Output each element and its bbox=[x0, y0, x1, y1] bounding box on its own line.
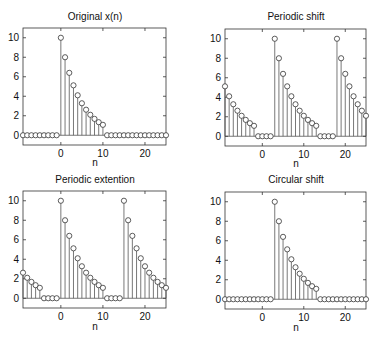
stem-marker bbox=[83, 107, 88, 112]
stem-marker bbox=[268, 134, 273, 139]
stem-marker bbox=[100, 122, 105, 127]
subplot-periodic-extension: Periodic extention 024681001020 n bbox=[8, 174, 169, 332]
y-tick-label: 2 bbox=[13, 110, 19, 121]
y-tick-label: 8 bbox=[215, 53, 221, 64]
stem-marker bbox=[71, 246, 76, 251]
y-tick-label: 0 bbox=[13, 293, 19, 304]
stem-marker bbox=[67, 233, 72, 238]
stem-marker bbox=[130, 233, 135, 238]
y-tick-label: 2 bbox=[13, 273, 19, 284]
y-tick-label: 6 bbox=[13, 71, 19, 82]
y-tick-label: 0 bbox=[215, 294, 221, 305]
subplot-title: Circular shift bbox=[268, 174, 324, 185]
x-axis-label: n bbox=[92, 321, 98, 332]
x-axis-label: n bbox=[293, 322, 299, 333]
stem-marker bbox=[272, 36, 277, 41]
stem-marker bbox=[75, 256, 80, 261]
stem-marker bbox=[117, 296, 122, 301]
stem-marker bbox=[231, 102, 236, 107]
stem-marker bbox=[276, 219, 281, 224]
stem-marker bbox=[126, 218, 131, 223]
stem-marker bbox=[163, 285, 168, 290]
y-tick-label: 4 bbox=[215, 255, 221, 266]
stem-marker bbox=[280, 234, 285, 239]
stem-marker bbox=[37, 285, 42, 290]
x-tick-label: 20 bbox=[139, 311, 151, 322]
stem-marker bbox=[147, 270, 152, 275]
stem-marker bbox=[314, 286, 319, 291]
subplot-title: Original x(n) bbox=[68, 11, 122, 22]
stem-marker bbox=[301, 276, 306, 281]
stem-marker bbox=[100, 285, 105, 290]
x-axis-label: n bbox=[92, 157, 98, 168]
x-tick-label: 10 bbox=[298, 149, 310, 160]
stem-marker bbox=[138, 256, 143, 261]
subplot-original: Original x(n) 024681001020 n bbox=[8, 11, 169, 168]
stem-marker bbox=[314, 123, 319, 128]
y-tick-label: 6 bbox=[215, 235, 221, 246]
subplot-circular-shift: Circular shift 024681001020 n bbox=[210, 174, 369, 333]
stem-marker bbox=[83, 270, 88, 275]
y-tick-label: 6 bbox=[13, 234, 19, 245]
stem-marker bbox=[339, 56, 344, 61]
stem-marker bbox=[62, 55, 67, 60]
y-tick-label: 8 bbox=[215, 216, 221, 227]
stem-marker bbox=[285, 84, 290, 89]
stem-marker bbox=[363, 113, 368, 118]
stem-marker bbox=[54, 296, 59, 301]
subplot-periodic-shift: Periodic shift 024681001020 n bbox=[210, 11, 369, 169]
x-tick-label: 20 bbox=[340, 312, 352, 323]
stem-marker bbox=[58, 198, 63, 203]
stem-marker bbox=[272, 199, 277, 204]
x-tick-label: 10 bbox=[298, 312, 310, 323]
stem-marker bbox=[134, 246, 139, 251]
stem-marker bbox=[88, 275, 93, 280]
stem-marker bbox=[280, 71, 285, 76]
stem-marker bbox=[297, 271, 302, 276]
x-tick-label: 20 bbox=[139, 148, 151, 159]
stem-marker bbox=[235, 108, 240, 113]
subplot-title: Periodic extention bbox=[55, 174, 135, 185]
y-tick-label: 10 bbox=[210, 33, 222, 44]
stem-marker bbox=[58, 35, 63, 40]
stem-marker bbox=[251, 123, 256, 128]
stem-marker bbox=[351, 94, 356, 99]
stem-marker bbox=[142, 264, 147, 269]
stem-marker bbox=[334, 36, 339, 41]
stem-marker bbox=[239, 113, 244, 118]
stem-marker bbox=[276, 56, 281, 61]
stem-marker bbox=[67, 70, 72, 75]
x-tick-label: 0 bbox=[58, 311, 64, 322]
x-tick-label: 0 bbox=[260, 149, 266, 160]
stem-marker bbox=[289, 257, 294, 262]
stem-marker bbox=[347, 84, 352, 89]
stem-marker bbox=[285, 247, 290, 252]
stem-marker bbox=[54, 133, 59, 138]
y-tick-label: 2 bbox=[215, 274, 221, 285]
y-tick-label: 4 bbox=[215, 92, 221, 103]
x-tick-label: 10 bbox=[97, 148, 109, 159]
y-tick-label: 4 bbox=[13, 254, 19, 265]
stem-marker bbox=[355, 102, 360, 107]
x-tick-label: 20 bbox=[340, 149, 352, 160]
x-axis-label: n bbox=[293, 158, 299, 169]
y-tick-label: 10 bbox=[8, 195, 20, 206]
y-tick-label: 0 bbox=[215, 131, 221, 142]
y-tick-label: 10 bbox=[210, 196, 222, 207]
stem-marker bbox=[25, 275, 30, 280]
stem-marker bbox=[268, 297, 273, 302]
stem-marker bbox=[151, 275, 156, 280]
y-tick-label: 2 bbox=[215, 111, 221, 122]
stem-marker bbox=[363, 297, 368, 302]
y-tick-label: 8 bbox=[13, 52, 19, 63]
y-tick-label: 6 bbox=[215, 72, 221, 83]
stem-marker bbox=[88, 112, 93, 117]
stem-marker bbox=[227, 94, 232, 99]
y-tick-label: 10 bbox=[8, 32, 20, 43]
stem-marker bbox=[121, 198, 126, 203]
x-tick-label: 0 bbox=[58, 148, 64, 159]
x-tick-label: 0 bbox=[260, 312, 266, 323]
stem-marker bbox=[301, 113, 306, 118]
stem-marker bbox=[359, 108, 364, 113]
stem-marker bbox=[330, 134, 335, 139]
